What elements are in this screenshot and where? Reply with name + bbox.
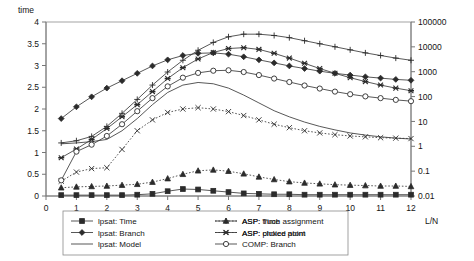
y-axis-left-tick-label: 4 [34, 17, 39, 27]
marker-square [165, 189, 170, 194]
y-axis-right-tick-label: 0.01 [418, 191, 435, 201]
marker-circle [241, 69, 246, 74]
x-axis-tick-label: 1 [74, 203, 79, 213]
marker-square [180, 187, 185, 192]
legend-item[interactable]: ASP: truch assignment [215, 217, 324, 226]
y-axis-right-tick-label: 1 [418, 141, 423, 151]
marker-circle [59, 178, 64, 183]
marker-circle [272, 76, 277, 81]
legend-item[interactable]: lpsat: Time [71, 217, 137, 226]
marker-square [378, 192, 383, 197]
legend-label: lpsat: Model [98, 240, 141, 249]
marker-square [196, 187, 201, 192]
legend-label: lpsat: Time [98, 217, 137, 226]
x-axis-tick-label: 4 [165, 203, 170, 213]
legend-label: lpsat: Branch [98, 229, 145, 238]
y-axis-left-title: time [18, 5, 34, 15]
marker-circle [150, 96, 155, 101]
marker-circle [211, 68, 216, 73]
marker-square [287, 192, 292, 197]
marker-circle [119, 122, 124, 127]
marker-square [363, 192, 368, 197]
x-axis-tick-label: 6 [226, 203, 231, 213]
marker-square [241, 191, 246, 196]
x-axis-tick-label: 7 [257, 203, 262, 213]
marker-square [150, 191, 155, 196]
x-axis-tick-label: 8 [287, 203, 292, 213]
x-axis-tick-label: 0 [44, 203, 49, 213]
marker-square [257, 191, 262, 196]
marker-square [333, 192, 338, 197]
y-axis-right-tick-label: 1000 [418, 67, 437, 77]
marker-circle [317, 86, 322, 91]
marker-square [59, 193, 64, 198]
marker-circle [332, 89, 337, 94]
marker-circle [135, 109, 140, 114]
marker-square [80, 219, 85, 224]
marker-circle [408, 99, 413, 104]
marker-square [135, 192, 140, 197]
y-axis-left-tick-label: 0 [34, 191, 39, 201]
y-axis-left-tick-label: 2 [34, 104, 39, 114]
line-chart: 00.511.522.533.54time0.010.1110100100010… [0, 0, 474, 261]
legend-label: COMP: Branch [242, 240, 296, 249]
marker-square [104, 193, 109, 198]
marker-square [302, 192, 307, 197]
marker-circle [74, 149, 79, 154]
marker-square [120, 193, 125, 198]
marker-circle [256, 72, 261, 77]
chart-container: 00.511.522.533.54time0.010.1110100100010… [0, 0, 474, 261]
y-axis-left-tick-label: 3.5 [27, 39, 39, 49]
marker-circle [302, 83, 307, 88]
marker-circle [104, 133, 109, 138]
x-axis-title: L/N [425, 216, 438, 226]
marker-circle [180, 75, 185, 80]
x-axis-tick-label: 11 [376, 203, 385, 213]
y-axis-right-tick-label: 10 [418, 117, 428, 127]
y-axis-left-tick-label: 1.5 [27, 126, 39, 136]
legend-item[interactable]: lpsat: Branch [71, 229, 145, 238]
y-axis-right-tick-label: 0.1 [418, 166, 430, 176]
marker-square [74, 193, 79, 198]
x-axis-tick-label: 2 [104, 203, 109, 213]
x-axis-tick-label: 5 [196, 203, 201, 213]
marker-square [89, 193, 94, 198]
legend-item[interactable]: lpsat: Model [71, 240, 141, 249]
marker-circle [363, 94, 368, 99]
marker-circle [165, 84, 170, 89]
marker-circle [195, 70, 200, 75]
marker-square [393, 192, 398, 197]
marker-circle [378, 96, 383, 101]
marker-square [272, 192, 277, 197]
y-axis-left-tick-label: 3 [34, 61, 39, 71]
x-axis-tick-label: 10 [345, 203, 355, 213]
legend-item[interactable]: COMP: Branch [215, 240, 296, 249]
x-axis-tick-label: 3 [135, 203, 140, 213]
y-axis-right-tick-label: 10000 [418, 42, 442, 52]
marker-square [348, 192, 353, 197]
marker-circle [393, 97, 398, 102]
marker-square [317, 192, 322, 197]
y-axis-left-tick-label: 2.5 [27, 82, 39, 92]
y-axis-right-tick-label: 100000 [418, 17, 447, 27]
x-axis-tick-label: 9 [317, 203, 322, 213]
legend-label: ASP: truch assignment [242, 217, 324, 226]
marker-circle [287, 79, 292, 84]
marker-diamond [79, 230, 85, 236]
marker-circle [226, 68, 231, 73]
marker-circle [89, 142, 94, 147]
y-axis-left-tick-label: 1 [34, 148, 39, 158]
y-axis-right-tick-label: 100 [418, 92, 432, 102]
marker-circle [223, 241, 228, 246]
legend-label: ASP: choice point [242, 229, 306, 238]
y-axis-left-tick-label: 0.5 [27, 169, 39, 179]
marker-square [211, 188, 216, 193]
marker-square [226, 190, 231, 195]
x-axis-tick-label: 12 [406, 203, 416, 213]
marker-square [409, 192, 414, 197]
marker-circle [348, 92, 353, 97]
